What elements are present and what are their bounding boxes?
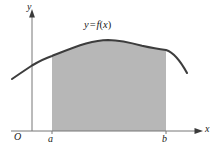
origin-label: O xyxy=(14,132,21,142)
function-equals-sign: = xyxy=(89,19,97,30)
function-equation-label: y=f(x) xyxy=(84,20,111,31)
function-var: y xyxy=(84,19,89,30)
upper-limit-label-b: b xyxy=(162,134,167,144)
y-axis-label: y xyxy=(27,2,31,12)
shaded-area-region xyxy=(52,40,166,131)
function-paren-close: ) xyxy=(108,19,112,30)
area-under-curve-figure: y x O a b y=f(x) xyxy=(0,0,217,162)
lower-limit-label-a: a xyxy=(48,134,53,144)
x-axis-arrowhead xyxy=(195,128,204,134)
x-axis-label: x xyxy=(205,124,209,134)
